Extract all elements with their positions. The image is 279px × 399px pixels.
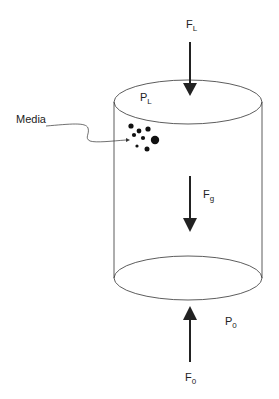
cylinder <box>114 80 262 300</box>
arrow-force-top <box>183 42 197 96</box>
media-particles <box>128 123 159 151</box>
diagram-canvas: FL PL Media Fg F0 P0 <box>0 0 279 399</box>
label-force-gravity: Fg <box>203 188 214 203</box>
label-media: Media <box>16 113 47 125</box>
label-force-bottom: F0 <box>185 371 197 386</box>
arrow-force-bottom <box>183 306 197 362</box>
cylinder-bottom-ellipse <box>114 256 262 300</box>
label-force-top: FL <box>186 18 198 33</box>
media-leader-arrowhead <box>126 138 130 142</box>
label-pressure-top: PL <box>140 91 152 106</box>
arrow-force-gravity <box>183 176 197 232</box>
label-pressure-bottom: P0 <box>225 315 237 330</box>
cylinder-force-diagram: FL PL Media Fg F0 P0 <box>0 0 279 399</box>
